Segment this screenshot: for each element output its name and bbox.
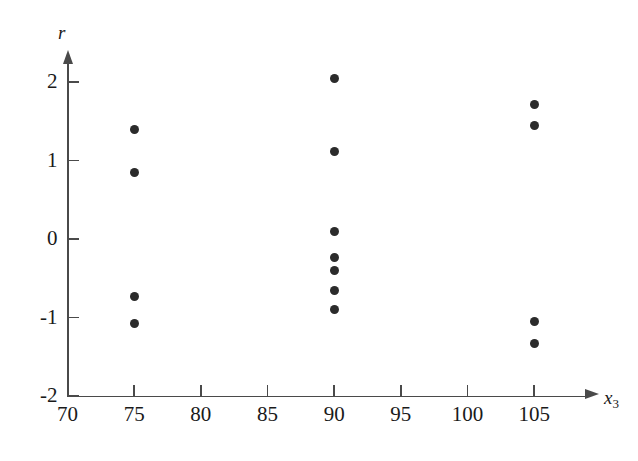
y-tick-label-2: 2 bbox=[24, 71, 58, 92]
data-point bbox=[530, 121, 539, 130]
data-point bbox=[330, 266, 339, 275]
x-tick-100 bbox=[467, 385, 469, 396]
y-tick-label--1: -1 bbox=[24, 307, 58, 328]
y-tick--1 bbox=[68, 317, 79, 319]
x-tick-label-85: 85 bbox=[245, 404, 291, 425]
x-tick-95 bbox=[400, 385, 402, 396]
data-point bbox=[130, 319, 139, 328]
x-tick-90 bbox=[333, 385, 335, 396]
x-tick-label-95: 95 bbox=[378, 404, 424, 425]
y-tick-0 bbox=[68, 238, 79, 240]
data-point bbox=[530, 317, 539, 326]
y-axis-line bbox=[67, 62, 69, 397]
x-tick-105 bbox=[533, 385, 535, 396]
x-axis-line bbox=[67, 396, 587, 398]
data-point bbox=[330, 227, 339, 236]
x-axis-title: x3 bbox=[604, 387, 619, 412]
x-tick-label-90: 90 bbox=[311, 404, 357, 425]
y-tick--2 bbox=[68, 395, 79, 397]
data-point bbox=[330, 74, 339, 83]
x-tick-75 bbox=[133, 385, 135, 396]
data-point bbox=[330, 253, 339, 262]
x-tick-80 bbox=[200, 385, 202, 396]
y-axis-arrow-icon bbox=[63, 50, 73, 64]
data-point bbox=[530, 339, 539, 348]
x-tick-label-100: 100 bbox=[445, 404, 491, 425]
y-tick-1 bbox=[68, 160, 79, 162]
residual-scatter-plot-figure: r x3 210-1-2 707580859095100105 bbox=[0, 0, 638, 461]
x-tick-label-105: 105 bbox=[511, 404, 557, 425]
data-point bbox=[330, 147, 339, 156]
data-point bbox=[130, 292, 139, 301]
data-point bbox=[530, 100, 539, 109]
y-axis-title: r bbox=[58, 22, 65, 44]
x-tick-label-70: 70 bbox=[45, 404, 91, 425]
data-point bbox=[330, 305, 339, 314]
y-tick-label-1: 1 bbox=[24, 150, 58, 171]
x-tick-label-75: 75 bbox=[111, 404, 157, 425]
data-point bbox=[130, 125, 139, 134]
plot-area: r x3 210-1-2 707580859095100105 bbox=[0, 0, 638, 461]
data-point bbox=[130, 168, 139, 177]
y-tick-label--2: -2 bbox=[24, 385, 58, 406]
data-point bbox=[330, 286, 339, 295]
x-tick-85 bbox=[267, 385, 269, 396]
y-tick-label-0: 0 bbox=[24, 228, 58, 249]
y-tick-2 bbox=[68, 81, 79, 83]
x-tick-label-80: 80 bbox=[178, 404, 224, 425]
x-axis-arrow-icon bbox=[585, 389, 599, 399]
x-axis-title-subscript: 3 bbox=[612, 396, 619, 411]
